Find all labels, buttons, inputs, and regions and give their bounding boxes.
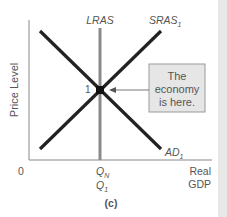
x-axis-label-line-2: GDP xyxy=(188,178,211,190)
q1-label: Q1 xyxy=(96,179,108,193)
note-line-3: is here. xyxy=(159,96,195,108)
ad-label: AD1 xyxy=(164,146,184,160)
note-line-1: The xyxy=(168,70,187,82)
arrow-head-icon xyxy=(109,87,116,93)
equilibrium-label: 1 xyxy=(85,84,91,95)
y-axis-label: Price Level xyxy=(8,63,20,117)
qn-label: QN xyxy=(96,165,110,179)
lras-label: LRAS xyxy=(86,14,113,26)
sras-label: SRAS1 xyxy=(149,14,182,28)
x-axis-label-line-1: Real xyxy=(189,165,211,177)
panel-label: (c) xyxy=(105,197,118,209)
equilibrium-point xyxy=(96,86,104,94)
origin-label: 0 xyxy=(18,165,24,177)
note-line-2: economy xyxy=(155,83,200,95)
as-ad-chart: The economy is here. LRAS SRAS1 AD1 1 Pr… xyxy=(0,0,227,217)
